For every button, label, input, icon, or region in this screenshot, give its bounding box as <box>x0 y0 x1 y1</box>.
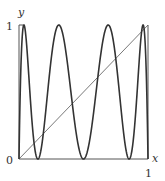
y-axis-label: y <box>17 6 25 19</box>
chart: y 1 0 x 1 <box>0 0 165 181</box>
x-axis-label: x <box>152 152 159 165</box>
diagonal-line <box>19 25 148 159</box>
origin-label: 0 <box>6 154 13 167</box>
x-one-label: 1 <box>145 167 152 180</box>
y-one-label: 1 <box>6 20 13 33</box>
